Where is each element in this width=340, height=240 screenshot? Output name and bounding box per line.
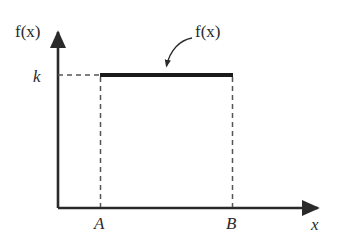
x-tick-label-b: B bbox=[226, 214, 237, 233]
x-axis-label: x bbox=[310, 215, 319, 234]
y-tick-label-k: k bbox=[33, 67, 41, 86]
uniform-distribution-diagram: f(x) f(x) k A B x bbox=[0, 0, 340, 240]
figure-container: f(x) f(x) k A B x bbox=[0, 0, 340, 240]
figure-background bbox=[0, 0, 340, 240]
y-axis-label: f(x) bbox=[15, 22, 40, 41]
x-tick-label-a: A bbox=[93, 214, 105, 233]
callout-label: f(x) bbox=[195, 22, 220, 41]
